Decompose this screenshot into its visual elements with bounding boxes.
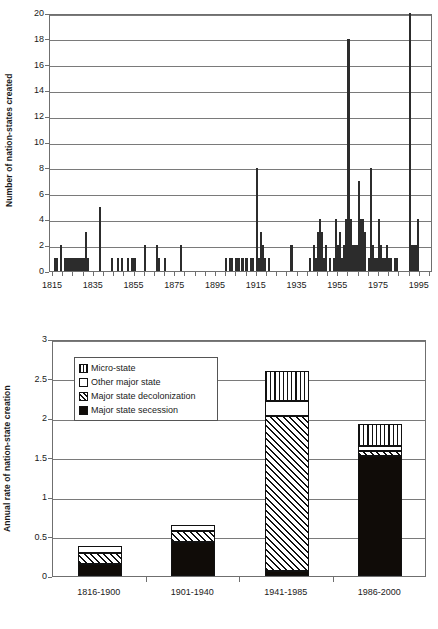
top-chart-plot-area bbox=[49, 14, 432, 272]
histogram-bar bbox=[364, 232, 366, 271]
x-tick-label: 1941-1985 bbox=[239, 587, 333, 597]
x-tick-mark bbox=[164, 272, 165, 276]
x-tick-label: 1895 bbox=[195, 280, 235, 290]
y-tick-label: 20 bbox=[20, 8, 44, 18]
x-tick-mark bbox=[184, 272, 185, 276]
bar-segment-decol bbox=[78, 553, 122, 564]
y-tick-label: 0 bbox=[18, 571, 47, 581]
legend-swatch-other-icon bbox=[79, 378, 88, 387]
bar-segment-other bbox=[78, 546, 122, 553]
x-tick-label: 1915 bbox=[236, 280, 276, 290]
x-tick-mark bbox=[409, 272, 410, 276]
x-tick-mark bbox=[146, 577, 147, 582]
gridline bbox=[50, 92, 431, 93]
bottom-chart-y-axis-label: Annual rate of nation-state creation bbox=[2, 348, 12, 569]
histogram-bar bbox=[329, 258, 331, 271]
gridline bbox=[50, 118, 431, 119]
bar-segment-other bbox=[171, 525, 215, 531]
x-tick-mark bbox=[398, 272, 399, 276]
stacked-bar bbox=[358, 424, 402, 576]
x-tick-mark bbox=[235, 272, 236, 276]
stacked-bar-figure: Annual rate of nation-state creation 00.… bbox=[0, 312, 438, 629]
x-tick-mark bbox=[276, 272, 277, 276]
caption-remnant bbox=[8, 617, 428, 627]
y-tick-label: 3 bbox=[18, 334, 47, 344]
legend-label: Micro-state bbox=[91, 363, 136, 373]
x-tick-mark bbox=[307, 272, 308, 276]
bar-segment-micro bbox=[358, 424, 402, 446]
histogram-bar bbox=[245, 258, 247, 271]
histogram-bar bbox=[309, 258, 311, 271]
x-tick-label: 1816-1900 bbox=[52, 587, 146, 597]
histogram-bar bbox=[158, 258, 160, 271]
x-tick-mark bbox=[195, 272, 196, 276]
y-tick-label: 16 bbox=[20, 60, 44, 70]
legend-item-secession: Major state secession bbox=[79, 403, 212, 417]
bar-segment-secession bbox=[358, 456, 402, 576]
histogram-bar bbox=[60, 245, 62, 271]
x-tick-mark bbox=[358, 272, 359, 276]
histogram-bar bbox=[390, 258, 392, 271]
bar-segment-other bbox=[358, 446, 402, 452]
y-tick-label: 4 bbox=[20, 214, 44, 224]
histogram-figure: Number of nation-states created 02468101… bbox=[0, 0, 438, 312]
stacked-bar bbox=[265, 371, 309, 576]
histogram-bar bbox=[117, 258, 119, 271]
legend-label: Major state secession bbox=[91, 405, 178, 415]
y-tick-label: 14 bbox=[20, 85, 44, 95]
x-tick-mark bbox=[174, 272, 175, 276]
bar-segment-decol bbox=[265, 416, 309, 571]
chart-legend: Micro-stateOther major stateMajor state … bbox=[74, 357, 218, 421]
bar-segment-secession bbox=[171, 542, 215, 576]
x-tick-label: 1986-2000 bbox=[333, 587, 427, 597]
y-tick-label: 2 bbox=[18, 413, 47, 423]
x-tick-mark bbox=[225, 272, 226, 276]
x-tick-label: 1975 bbox=[358, 280, 398, 290]
histogram-bar bbox=[127, 258, 129, 271]
x-tick-mark bbox=[134, 272, 135, 276]
y-tick-label: 6 bbox=[20, 189, 44, 199]
histogram-bar bbox=[290, 245, 292, 271]
y-tick-label: 2 bbox=[20, 240, 44, 250]
histogram-bar bbox=[237, 258, 239, 271]
gridline bbox=[50, 221, 431, 222]
histogram-bar bbox=[396, 258, 398, 271]
legend-swatch-decol-icon bbox=[79, 392, 88, 401]
x-tick-mark bbox=[327, 272, 328, 276]
histogram-bar bbox=[56, 258, 58, 271]
x-tick-label: 1901-1940 bbox=[146, 587, 240, 597]
y-tick-label: 10 bbox=[20, 137, 44, 147]
histogram-bar bbox=[87, 258, 89, 271]
histogram-bar bbox=[325, 245, 327, 271]
y-tick-label: 1 bbox=[18, 492, 47, 502]
x-tick-label: 1955 bbox=[317, 280, 357, 290]
x-tick-mark bbox=[429, 272, 430, 276]
y-tick-label: 0.5 bbox=[18, 532, 47, 542]
top-chart-y-axis-label: Number of nation-states created bbox=[4, 36, 14, 244]
x-tick-label: 1935 bbox=[277, 280, 317, 290]
x-tick-mark bbox=[144, 272, 145, 276]
stacked-bar bbox=[171, 525, 215, 576]
x-tick-mark bbox=[317, 272, 318, 276]
x-tick-mark bbox=[154, 272, 155, 276]
bar-segment-secession bbox=[78, 564, 122, 576]
y-tick-label: 12 bbox=[20, 111, 44, 121]
x-tick-mark bbox=[72, 272, 73, 276]
histogram-bar bbox=[231, 258, 233, 271]
x-tick-mark bbox=[239, 577, 240, 582]
legend-item-decol: Major state decolonization bbox=[79, 389, 212, 403]
histogram-bar bbox=[144, 245, 146, 271]
x-tick-mark bbox=[337, 272, 338, 276]
x-tick-mark bbox=[368, 272, 369, 276]
histogram-bar bbox=[111, 258, 113, 271]
histogram-bar bbox=[409, 13, 411, 271]
legend-swatch-secession-icon bbox=[79, 406, 88, 415]
gridline bbox=[53, 341, 425, 342]
histogram-bar bbox=[268, 258, 270, 271]
legend-swatch-micro-icon bbox=[79, 364, 88, 373]
x-tick-label: 1875 bbox=[154, 280, 194, 290]
x-tick-mark bbox=[419, 272, 420, 276]
histogram-bar bbox=[133, 258, 135, 271]
x-tick-label: 1855 bbox=[114, 280, 154, 290]
x-tick-mark bbox=[297, 272, 298, 276]
